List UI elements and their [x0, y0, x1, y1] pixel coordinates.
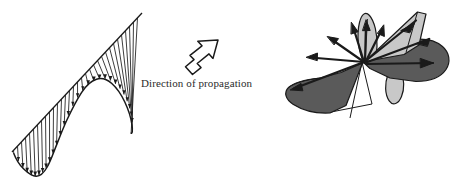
left-wave-panel: [0, 0, 160, 196]
wave-axis-line: [12, 13, 142, 152]
field-arrow-left-upper: [307, 53, 365, 62]
propagation-arrow-icon: [186, 40, 219, 75]
propagation-caption: Direction of propagation: [141, 77, 281, 90]
wave-propagation-figure: Direction of propagation: [0, 0, 457, 196]
right-radiation-panel: [280, 0, 457, 196]
field-vector-hatching: [14, 18, 138, 177]
